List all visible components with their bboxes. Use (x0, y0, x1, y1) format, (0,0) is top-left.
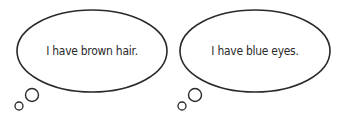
bubble-text-right: I have blue eyes. (191, 43, 320, 58)
thought-circle-small (178, 102, 186, 110)
thought-bubbles-canvas (0, 0, 347, 121)
thought-bubble-right (178, 10, 330, 110)
bubble-text-left: I have brown hair. (28, 43, 157, 58)
thought-circle-small (15, 102, 23, 110)
thought-circle-large (26, 89, 39, 102)
thought-bubble-left (15, 10, 167, 110)
thought-circle-large (189, 89, 202, 102)
